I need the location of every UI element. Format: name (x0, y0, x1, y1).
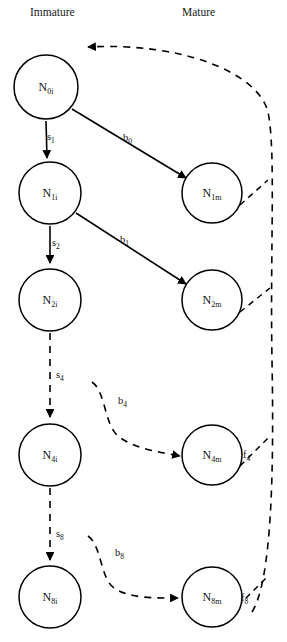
node-n2m[interactable]: N2m (182, 270, 242, 330)
edge-label-s2: s2 (52, 237, 60, 251)
node-n4m-sub: 4m (211, 455, 222, 464)
feedback-branches-group (238, 180, 270, 606)
edge-b4-path (92, 382, 180, 456)
node-n2i-sub: 2i (51, 300, 58, 309)
edge-label-b8: b8 (115, 547, 124, 561)
edge-label-s4: s4 (56, 369, 64, 383)
population-flow-diagram: Immature Mature (0, 0, 287, 642)
diagram-canvas: Immature Mature (0, 0, 287, 642)
node-n1i-sub: 1i (51, 193, 58, 202)
edge-label-b1: b1 (120, 234, 129, 248)
node-n1m-sub: 1m (211, 193, 222, 202)
edge-label-f8-sub: 8 (245, 597, 249, 606)
node-n0i[interactable]: N0i (14, 55, 78, 119)
node-n8i-base: N (43, 590, 52, 604)
node-n8i-sub: 8i (51, 597, 58, 606)
edge-label-b8-sub: 8 (120, 552, 124, 561)
node-n0i-sub: 0i (47, 87, 54, 96)
node-n4i-sub: 4i (51, 455, 58, 464)
column-header-immature: Immature (30, 6, 75, 18)
edge-label-s4-sub: 4 (60, 374, 64, 383)
edge-label-f4: f4 (243, 449, 251, 463)
edge-b8-path (88, 536, 178, 598)
feedback-trunk-group (88, 46, 273, 612)
edge-label-b1-sub: 1 (125, 239, 129, 248)
node-n2m-sub: 2m (211, 300, 222, 309)
node-n1m[interactable]: N1m (182, 163, 242, 223)
edge-label-s8: s8 (56, 528, 64, 542)
node-n8m-sub: 8m (211, 597, 222, 606)
edge-label-b0: b0 (123, 132, 132, 146)
birth-edges-group (72, 109, 186, 598)
node-n8m-base: N (203, 590, 212, 604)
node-n8i[interactable]: N8i (19, 566, 81, 628)
node-n2m-base: N (203, 293, 212, 307)
node-n4m[interactable]: N4m (182, 425, 242, 485)
node-n8m[interactable]: N8m (182, 567, 242, 627)
node-n4i-base: N (43, 448, 52, 462)
edge-label-s1: s1 (47, 131, 55, 145)
edge-label-f8: f8 (241, 592, 249, 606)
node-n1m-base: N (203, 186, 212, 200)
node-n4i[interactable]: N4i (19, 424, 81, 486)
feedback-branch-f1 (240, 180, 268, 205)
edge-label-b4-sub: 4 (123, 400, 127, 409)
edge-label-s1-sub: 1 (51, 136, 55, 145)
edge-label-s2-sub: 2 (56, 242, 60, 251)
edge-label-b4: b4 (118, 395, 127, 409)
node-n0i-base: N (39, 80, 48, 94)
node-n4m-base: N (203, 448, 212, 462)
feedback-trunk-path (88, 46, 273, 612)
node-n2i[interactable]: N2i (19, 269, 81, 331)
node-n1i[interactable]: N1i (19, 162, 81, 224)
column-header-mature: Mature (182, 6, 215, 18)
node-n2i-base: N (43, 293, 52, 307)
edge-label-s8-sub: 8 (60, 533, 64, 542)
edge-label-f4-sub: 4 (247, 454, 251, 463)
feedback-branch-f2 (240, 288, 270, 312)
edge-b1-path (76, 213, 186, 284)
node-n1i-base: N (43, 186, 52, 200)
edge-label-b0-sub: 0 (128, 137, 132, 146)
